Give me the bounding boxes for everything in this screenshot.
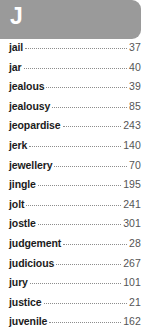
index-entry[interactable]: jewellery70 — [0, 159, 150, 179]
index-entry-term: jingle — [9, 178, 36, 190]
index-entry[interactable]: jury101 — [0, 276, 150, 296]
index-entry-term: jealous — [9, 80, 44, 92]
index-entry-page-number: 301 — [123, 217, 141, 229]
dot-leader — [38, 178, 121, 188]
index-entry-term: judgement — [9, 237, 61, 249]
dot-leader — [25, 41, 127, 51]
index-entry-page-number: 101 — [123, 276, 141, 288]
index-entry[interactable]: juvenile162 — [0, 315, 150, 331]
dot-leader — [26, 198, 121, 208]
dot-leader — [54, 159, 127, 169]
index-entry[interactable]: judicious267 — [0, 257, 150, 277]
index-entry-page-number: 21 — [129, 296, 141, 308]
index-entry-page-number: 37 — [129, 41, 141, 53]
index-entry-term: jail — [9, 41, 23, 53]
index-entry[interactable]: judgement28 — [0, 237, 150, 257]
index-entry-term: jewellery — [9, 159, 52, 171]
index-entry-term: jealousy — [9, 100, 50, 112]
index-entry[interactable]: jealousy85 — [0, 100, 150, 120]
letter-section-label: J — [10, 3, 23, 29]
dot-leader — [24, 61, 128, 71]
dot-leader — [63, 237, 127, 247]
index-entry-page-number: 140 — [123, 139, 141, 151]
index-entry-term: jolt — [9, 198, 24, 210]
dot-leader — [44, 296, 128, 306]
index-entry[interactable]: jolt241 — [0, 198, 150, 218]
dot-leader — [63, 119, 122, 129]
index-entry-page-number: 85 — [129, 100, 141, 112]
index-entry-page-number: 40 — [129, 61, 141, 73]
index-entry[interactable]: jingle195 — [0, 178, 150, 198]
index-entry-page-number: 267 — [123, 257, 141, 269]
dot-leader — [30, 276, 121, 286]
index-entry-term: jury — [9, 276, 28, 288]
index-entry-page-number: 241 — [123, 198, 141, 210]
index-entry-term: jostle — [9, 217, 36, 229]
index-entry-term: justice — [9, 296, 42, 308]
index-entry[interactable]: jail37 — [0, 41, 150, 61]
index-entry[interactable]: jostle301 — [0, 217, 150, 237]
dot-leader — [29, 139, 121, 149]
index-entry-term: judicious — [9, 257, 54, 269]
index-entry-term: jeopardise — [9, 119, 61, 131]
dot-leader — [56, 257, 121, 267]
dot-leader — [38, 217, 121, 227]
dot-leader — [46, 80, 127, 90]
dot-leader — [49, 315, 121, 325]
dot-leader — [52, 100, 127, 110]
index-entry-page-number: 195 — [123, 178, 141, 190]
index-entry[interactable]: jeopardise243 — [0, 119, 150, 139]
letter-section-header: J — [0, 0, 141, 39]
index-entry[interactable]: jealous39 — [0, 80, 150, 100]
index-entry-term: jar — [9, 61, 22, 73]
index-entry-page-number: 162 — [123, 315, 141, 327]
index-entry-term: jerk — [9, 139, 27, 151]
index-entry-page-number: 28 — [129, 237, 141, 249]
index-entry-page-number: 70 — [129, 159, 141, 171]
index-entry-page-number: 243 — [123, 119, 141, 131]
index-entry-term: juvenile — [9, 315, 47, 327]
index-entry-list: jail37jar40jealous39jealousy85jeopardise… — [0, 41, 150, 331]
index-entry[interactable]: jerk140 — [0, 139, 150, 159]
index-entry[interactable]: justice21 — [0, 296, 150, 316]
index-entry[interactable]: jar40 — [0, 61, 150, 81]
index-entry-page-number: 39 — [129, 80, 141, 92]
